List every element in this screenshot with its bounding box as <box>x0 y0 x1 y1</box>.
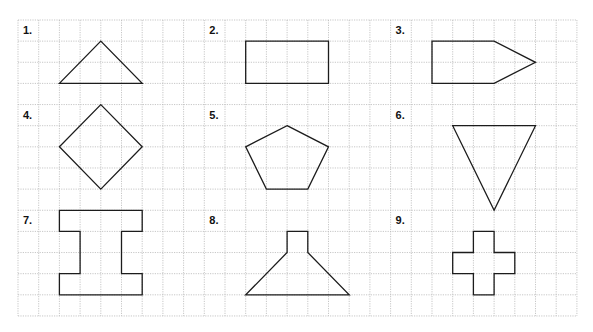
figure-label: 3. <box>396 24 405 36</box>
figure-2: 2. <box>209 24 328 83</box>
funnel-shape <box>246 231 350 294</box>
figure-label: 2. <box>209 24 218 36</box>
cross-shape <box>453 231 515 294</box>
grid-worksheet: 1.2.3.4.5.6.7.8.9. <box>0 0 593 332</box>
figure-label: 7. <box>23 214 32 226</box>
figure-label: 9. <box>396 214 405 226</box>
figures: 1.2.3.4.5.6.7.8.9. <box>23 24 536 295</box>
figure-label: 4. <box>23 109 32 121</box>
figure-label: 1. <box>23 24 32 36</box>
figure-9: 9. <box>396 214 515 295</box>
figure-5: 5. <box>209 109 328 190</box>
figure-label: 5. <box>209 109 218 121</box>
figure-label: 6. <box>396 109 405 121</box>
figure-1: 1. <box>23 24 142 83</box>
figure-label: 8. <box>209 214 218 226</box>
dotted-grid <box>18 20 577 316</box>
